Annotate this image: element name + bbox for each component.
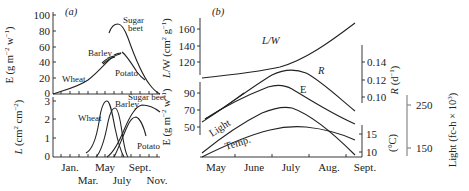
b-xtick-may: May: [206, 161, 227, 173]
b-r-ylabel: R (d−1): [388, 65, 401, 95]
figure: (a) 100 80 60 40 20 0: [0, 0, 469, 191]
b-xtick-june: June: [244, 161, 264, 173]
svg-text:100: 100: [34, 9, 51, 21]
b-light-ticks: 250 150: [407, 99, 433, 154]
b-lw-ticks: 160 140 120: [179, 23, 201, 68]
b-r-ticks: 0.14 0.12 0.10: [362, 56, 387, 103]
svg-text:90: 90: [184, 87, 196, 99]
b-r-label: R: [317, 65, 325, 76]
svg-text:80: 80: [39, 25, 51, 37]
a-xtick-mar: Mar.: [78, 174, 99, 186]
a-xtick-jan: Jan.: [61, 161, 79, 173]
b-r-curve: [202, 70, 355, 122]
panel-a-label: (a): [65, 6, 78, 18]
a-top-sugarbeet-curve: [109, 24, 160, 94]
b-lw-label: L/W: [261, 35, 281, 46]
a-bottom-yticks: 3 2 1 0: [45, 95, 57, 162]
b-xtick-sept: Sept.: [354, 161, 377, 173]
svg-text:10: 10: [366, 146, 378, 158]
b-temp-start-segment: [205, 93, 244, 119]
b-xtick-aug: Aug.: [318, 161, 340, 173]
svg-text:2: 2: [45, 113, 51, 125]
b-light-label: Light: [207, 117, 232, 139]
svg-text:160: 160: [179, 23, 196, 35]
b-e-ticks: 90 70 50: [184, 87, 200, 133]
svg-text:140: 140: [179, 40, 196, 52]
b-lw-curve: [202, 23, 355, 78]
b-xtick-july: July: [282, 161, 301, 173]
svg-text:0.12: 0.12: [367, 74, 386, 86]
a-xtick-july: July: [113, 174, 132, 186]
a-bottom-barley-label: Barley: [115, 99, 139, 109]
svg-text:50: 50: [184, 121, 196, 133]
a-top-potato-label: Potato: [115, 68, 139, 78]
b-temp-ylabel: (°C): [387, 133, 399, 152]
b-e-ylabel: E (g m−2 w−1): [160, 88, 173, 146]
svg-text:150: 150: [416, 142, 433, 154]
a-top-beet-label: beet: [128, 23, 143, 33]
b-lw-ylabel: L/W (cm2 g−1): [160, 18, 173, 79]
a-xtick-may: May: [95, 161, 116, 173]
a-bottom-ylabel: L (cm2 cm−2): [12, 99, 25, 155]
svg-text:120: 120: [179, 56, 196, 68]
svg-text:0.10: 0.10: [367, 91, 387, 103]
b-light-ylabel: Light (fc-h × 103): [446, 92, 459, 167]
panel-a: (a) 100 80 60 40 20 0: [3, 6, 168, 186]
a-bottom-potato-label: Potato: [137, 141, 161, 151]
a-bottom-potato-curve: [114, 117, 146, 157]
a-top-wheat-label: Wheat: [62, 74, 86, 84]
svg-text:0: 0: [45, 150, 51, 162]
panel-b: (b) 160 140 120 L/W (cm2 g−1) 90 70 50 E…: [160, 6, 459, 173]
panel-b-label: (b): [212, 6, 225, 18]
svg-text:20: 20: [39, 72, 51, 84]
a-xtick-nov: Nov.: [147, 174, 168, 186]
svg-text:1: 1: [45, 132, 51, 144]
b-temp-label: Temp.: [223, 134, 251, 152]
svg-text:250: 250: [416, 99, 433, 111]
a-xtick-sept: Sept.: [129, 161, 152, 173]
a-bottom-wheat-label: Wheat: [78, 113, 102, 123]
svg-text:15: 15: [366, 128, 378, 140]
b-e-label: E: [300, 84, 306, 95]
a-top-ylabel: E (g m−2 w−1): [3, 26, 16, 84]
a-top-barley-label: Barley: [88, 48, 112, 58]
svg-text:3: 3: [45, 95, 51, 107]
svg-text:60: 60: [39, 41, 51, 53]
svg-text:40: 40: [39, 56, 51, 68]
svg-text:70: 70: [184, 104, 196, 116]
svg-text:0.14: 0.14: [367, 56, 387, 68]
